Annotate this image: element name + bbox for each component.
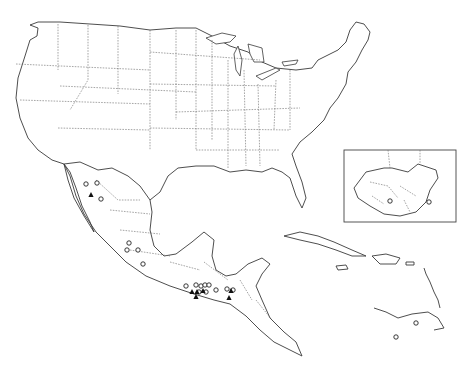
circle-marker-icon (427, 200, 431, 204)
us-coastline (16, 22, 370, 208)
puerto-rico (406, 262, 414, 265)
lake-michigan (234, 46, 242, 76)
lesser-antilles (424, 268, 440, 308)
circle-marker-icon (214, 288, 218, 292)
circle-marker-icon (184, 284, 188, 288)
triangle-marker-icon (88, 192, 93, 197)
triangle-marker-icon (226, 295, 231, 300)
circle-marker-icon (194, 283, 198, 287)
lake-superior (206, 33, 236, 44)
cuba (284, 232, 366, 256)
circle-marker-icon (388, 199, 392, 203)
circle-marker-icon (99, 197, 103, 201)
circle-marker-icon (225, 287, 229, 291)
triangle-marker-icon (189, 289, 194, 294)
lake-erie (256, 68, 280, 80)
circle-marker-icon (394, 335, 398, 339)
circle-marker-icon (207, 283, 211, 287)
map-canvas (0, 0, 462, 373)
circle-marker-icon (136, 248, 140, 252)
hispaniola (372, 254, 400, 264)
lake-ontario (282, 60, 298, 66)
circle-marker-icon (84, 182, 88, 186)
circle-marker-icon (141, 262, 145, 266)
circle-marker-icon (127, 241, 131, 245)
mexico-state-borders (96, 180, 272, 320)
guatemala-inset (344, 150, 456, 222)
circle-marker-icon (95, 181, 99, 185)
circle-marker-icon (414, 321, 418, 325)
lake-huron (248, 44, 264, 62)
circle-marker-icon (125, 248, 129, 252)
jamaica (336, 265, 348, 270)
south-america-coast (374, 308, 444, 330)
mexico-coastline (64, 164, 302, 356)
baja-california (64, 164, 94, 232)
us-state-borders (16, 24, 300, 168)
